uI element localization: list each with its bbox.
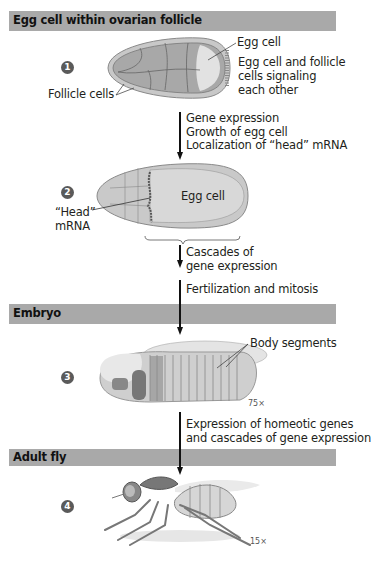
flow-line <box>179 112 181 154</box>
egg-illustration <box>92 164 248 244</box>
step-number-3: 3 <box>61 371 74 384</box>
label-signaling-line-2: cells signaling <box>238 69 316 83</box>
label-head-mrna-line-2: mRNA <box>55 219 90 233</box>
magnification-15x: 15× <box>250 537 267 546</box>
label-body-segments: Body segments <box>250 336 337 350</box>
label-head-mrna-line-1: “Head” <box>55 205 95 219</box>
step-number-1: 1 <box>61 61 74 74</box>
transition-1-line-1: Gene expression <box>186 111 279 125</box>
transition-4-line-2: and cascades of gene expression <box>186 431 371 445</box>
magnification-75x: 75× <box>248 399 265 408</box>
label-egg-cell-2: Egg cell <box>181 189 225 203</box>
transition-4-line-1: Expression of homeotic genes <box>186 417 353 431</box>
step-number-4: 4 <box>61 500 74 513</box>
label-egg-cell-1: Egg cell <box>237 35 281 49</box>
flow-line <box>179 412 181 469</box>
transition-1-line-3: Localization of “head” mRNA <box>186 138 347 152</box>
transition-1-line-2: Growth of egg cell <box>186 125 288 139</box>
fly-illustration <box>105 477 260 545</box>
transition-3-line-1: Fertilization and mitosis <box>186 282 318 296</box>
label-signaling-line-3: each other <box>238 83 298 97</box>
step-number-2: 2 <box>61 186 74 199</box>
transition-2-line-2: gene expression <box>186 259 277 273</box>
flow-line <box>179 245 181 262</box>
label-signaling-line-1: Egg cell and follicle <box>238 55 345 69</box>
transition-2-line-1: Cascades of <box>186 245 253 259</box>
label-follicle-cells: Follicle cells <box>48 87 114 101</box>
flow-line <box>179 280 181 329</box>
embryo-illustration <box>100 341 267 402</box>
follicle-illustration <box>108 38 236 98</box>
